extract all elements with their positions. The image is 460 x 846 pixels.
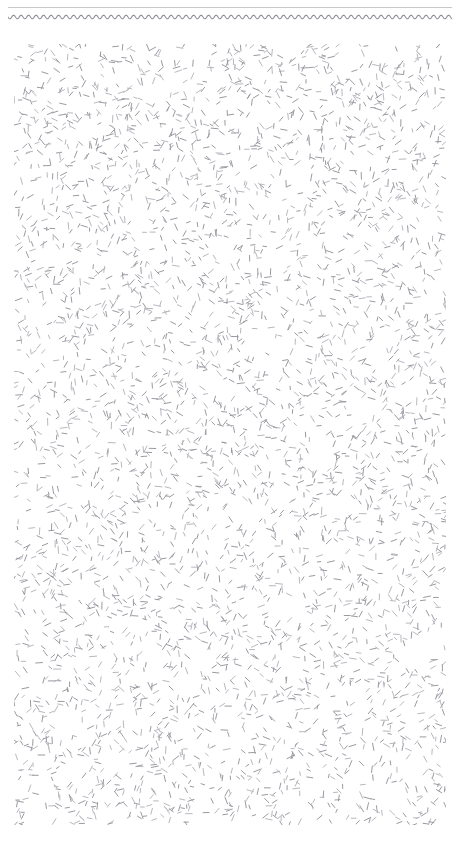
page-title: Abstract Texture Page xyxy=(0,0,1,1)
page-root: Abstract Texture Page xyxy=(0,0,460,846)
wavy-rule xyxy=(8,11,452,22)
dash-texture-field xyxy=(14,44,446,825)
dash-texture-graphic xyxy=(14,44,446,825)
wavy-rule-graphic xyxy=(8,11,452,22)
horizontal-rule xyxy=(8,7,452,8)
